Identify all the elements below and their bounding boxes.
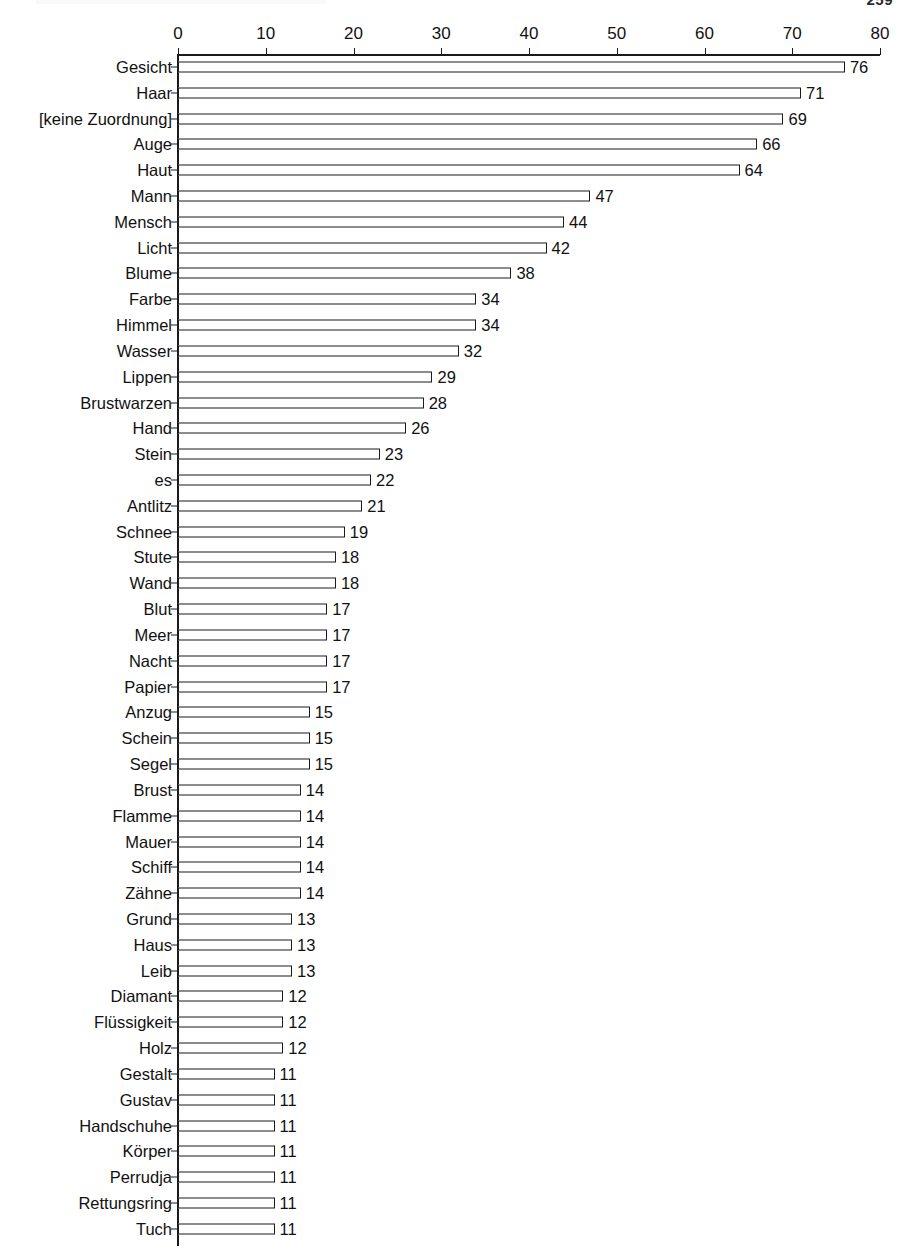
x-axis-tick-label: 20 — [344, 24, 363, 44]
y-axis-tick-mark — [171, 893, 178, 894]
bar-row: Stute18 — [0, 545, 907, 571]
bar-category-label: Anzug — [125, 704, 172, 721]
bar — [178, 139, 757, 150]
bar — [178, 862, 301, 873]
bar — [178, 216, 564, 227]
bar — [178, 836, 301, 847]
bar — [178, 604, 327, 615]
x-axis-tick-label: 40 — [520, 24, 539, 44]
bar — [178, 1094, 275, 1105]
y-axis-tick-mark — [171, 376, 178, 377]
bar — [178, 345, 459, 356]
y-axis-tick-mark — [171, 557, 178, 558]
bar-value-label: 12 — [288, 1040, 306, 1057]
bar-row: Wasser32 — [0, 338, 907, 364]
bar-category-label: Tuch — [136, 1221, 172, 1238]
y-axis-tick-mark — [171, 118, 178, 119]
y-axis-tick-mark — [171, 738, 178, 739]
bar — [178, 759, 310, 770]
bar-category-label: Haut — [137, 162, 172, 179]
bar-row: Gustav11 — [0, 1087, 907, 1113]
bar-row: Mann47 — [0, 183, 907, 209]
bar — [178, 191, 590, 202]
bar-category-label: Flüssigkeit — [94, 1014, 172, 1031]
bar-category-label: es — [155, 472, 172, 489]
bar — [178, 113, 783, 124]
bar — [178, 578, 336, 589]
bar-row: Schein15 — [0, 725, 907, 751]
bar-category-label: Haus — [133, 937, 172, 954]
bar-value-label: 14 — [306, 859, 324, 876]
bar-value-label: 13 — [297, 911, 315, 928]
bar-category-label: Mann — [131, 188, 172, 205]
bar-value-label: 21 — [367, 498, 385, 515]
bar-value-label: 11 — [280, 1221, 297, 1238]
bar-category-label: Farbe — [129, 291, 172, 308]
bar-value-label: 69 — [788, 110, 806, 127]
bar-row: Flüssigkeit12 — [0, 1009, 907, 1035]
bar — [178, 939, 292, 950]
bar — [178, 87, 801, 98]
y-axis-tick-mark — [171, 867, 178, 868]
bar-value-label: 19 — [350, 523, 368, 540]
bar-value-label: 18 — [341, 575, 359, 592]
bar-row: Brust14 — [0, 777, 907, 803]
bar-value-label: 76 — [850, 59, 868, 76]
bar-category-label: Holz — [139, 1040, 172, 1057]
bar-row: Schnee19 — [0, 519, 907, 545]
bar-value-label: 29 — [437, 368, 455, 385]
bar-value-label: 14 — [306, 782, 324, 799]
bar — [178, 1223, 275, 1234]
bar — [178, 655, 327, 666]
bar — [178, 1172, 275, 1183]
bar-category-label: Handschuhe — [79, 1117, 172, 1134]
bar — [178, 371, 432, 382]
bar-row: Holz12 — [0, 1035, 907, 1061]
bar-row: Nacht17 — [0, 648, 907, 674]
plot-area: Gesicht76Haar71[keine Zuordnung]69Auge66… — [0, 54, 907, 1254]
x-axis-tick-label: 0 — [173, 24, 182, 44]
y-axis-tick-mark — [171, 247, 178, 248]
bar-row: Hand26 — [0, 415, 907, 441]
bar-value-label: 17 — [332, 678, 350, 695]
x-axis-tick-label: 60 — [695, 24, 714, 44]
bar-value-label: 12 — [288, 988, 306, 1005]
bar-category-label: Wasser — [117, 343, 172, 360]
bar-value-label: 34 — [481, 317, 499, 334]
bar-row: Auge66 — [0, 131, 907, 157]
y-axis-tick-mark — [171, 196, 178, 197]
y-axis-tick-mark — [171, 609, 178, 610]
x-axis-tick-mark — [178, 48, 179, 55]
bar-category-label: Flamme — [112, 807, 172, 824]
y-axis-tick-mark — [171, 325, 178, 326]
x-axis-tick-mark — [266, 48, 267, 55]
x-axis-tick-mark — [354, 48, 355, 55]
bar-value-label: 11 — [280, 1195, 297, 1212]
y-axis-tick-mark — [171, 273, 178, 274]
bar — [178, 1146, 275, 1157]
bar-row: Haut64 — [0, 157, 907, 183]
bar-row: Himmel34 — [0, 312, 907, 338]
x-axis-tick-mark — [705, 48, 706, 55]
bar-category-label: Brustwarzen — [80, 394, 172, 411]
bar-row: Haar71 — [0, 80, 907, 106]
bar — [178, 268, 511, 279]
bar-row: Licht42 — [0, 235, 907, 261]
bar-category-label: Gestalt — [120, 1066, 172, 1083]
bar-value-label: 44 — [569, 214, 587, 231]
bar — [178, 294, 476, 305]
y-axis-tick-mark — [171, 686, 178, 687]
bar — [178, 552, 336, 563]
bar-row: Anzug15 — [0, 700, 907, 726]
bar-value-label: 26 — [411, 420, 429, 437]
bar — [178, 526, 345, 537]
bar-category-label: Perrudja — [110, 1169, 172, 1186]
y-axis-tick-mark — [171, 1099, 178, 1100]
bar — [178, 1197, 275, 1208]
bar — [178, 500, 362, 511]
bar-row: Tuch11 — [0, 1216, 907, 1242]
x-axis-tick-label: 10 — [256, 24, 275, 44]
bar-value-label: 13 — [297, 962, 315, 979]
bar — [178, 1017, 283, 1028]
bar — [178, 991, 283, 1002]
